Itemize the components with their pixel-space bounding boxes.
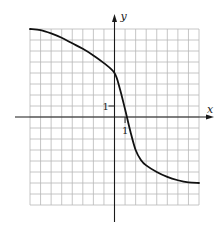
- y-axis-arrow-icon: [112, 14, 117, 22]
- x-axis-label: x: [207, 103, 214, 116]
- x-tick-label: 1: [122, 125, 128, 136]
- y-tick-label: 1: [103, 101, 109, 112]
- function-graph: x y 1 1: [0, 0, 220, 227]
- y-axis-label: y: [120, 10, 128, 23]
